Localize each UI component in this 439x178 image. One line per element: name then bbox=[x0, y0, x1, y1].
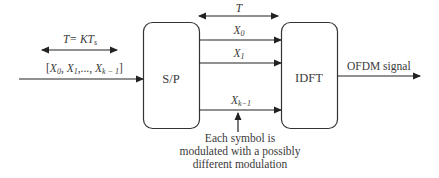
stream-label-x1: X1 bbox=[233, 47, 244, 61]
modulation-annotation: Each symbol is modulated with a possibly… bbox=[165, 132, 315, 171]
input-period-label: T= KTs bbox=[63, 33, 97, 47]
output-label: OFDM signal bbox=[347, 60, 411, 72]
parallel-period-label: T bbox=[236, 2, 242, 14]
sp-label: S/P bbox=[162, 72, 179, 87]
input-vector-label: [X0, X1,..., Xk − 1] bbox=[46, 62, 123, 76]
stream-label-xk-1: Xk−1 bbox=[231, 94, 251, 108]
stream-label-x0: X0 bbox=[233, 24, 244, 38]
idft-label: IDFT bbox=[295, 71, 323, 86]
